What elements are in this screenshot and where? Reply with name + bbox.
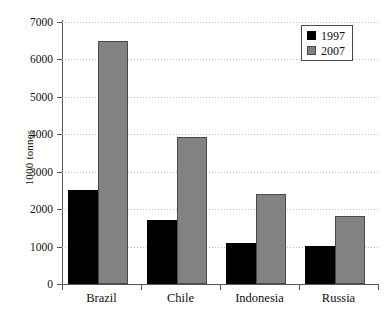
legend-swatch-icon-2007 (307, 46, 316, 55)
bar-russia-1997 (305, 246, 335, 284)
bar-russia-2007 (335, 216, 365, 284)
legend: 19972007 (301, 25, 353, 61)
x-tick-mark (141, 284, 142, 290)
legend-swatch-icon-1997 (307, 31, 316, 40)
legend-item-2007: 2007 (307, 44, 345, 57)
x-tick-mark (378, 284, 379, 290)
bar-chile-2007 (177, 137, 207, 284)
y-tick-label: 3000 (4, 166, 53, 178)
x-tick-mark (299, 284, 300, 290)
x-category-label-russia: Russia (322, 291, 355, 306)
y-tick-label: 7000 (4, 16, 53, 28)
y-tick-label: 6000 (4, 53, 53, 65)
y-tick-label: 4000 (4, 128, 53, 140)
bar-chart: 1000 tonnes 0100020003000400050006000700… (0, 0, 386, 315)
plot-area (62, 22, 378, 284)
x-category-label-brazil: Brazil (86, 291, 117, 306)
x-tick-mark (220, 284, 221, 290)
legend-label-1997: 1997 (321, 30, 345, 42)
bar-brazil-1997 (68, 190, 98, 284)
bar-brazil-2007 (98, 41, 128, 284)
bar-indonesia-2007 (256, 194, 286, 284)
x-category-label-indonesia: Indonesia (235, 291, 284, 306)
y-tick-label: 5000 (4, 91, 53, 103)
legend-label-2007: 2007 (321, 45, 345, 57)
y-tick-label: 1000 (4, 241, 53, 253)
x-category-label-chile: Chile (167, 291, 194, 306)
y-tick-label: 0 (4, 278, 53, 290)
y-axis-title: 1000 tonnes (18, 0, 40, 315)
legend-item-1997: 1997 (307, 29, 345, 42)
bar-indonesia-1997 (226, 243, 256, 284)
x-tick-mark (62, 284, 63, 290)
bar-chile-1997 (147, 220, 177, 284)
y-tick-label: 2000 (4, 203, 53, 215)
